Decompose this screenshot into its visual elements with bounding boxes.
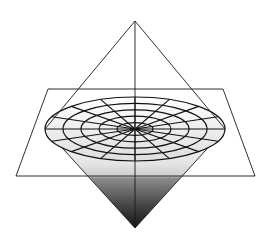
diagram-svg bbox=[0, 0, 268, 239]
double-cone-diagram bbox=[0, 0, 268, 239]
